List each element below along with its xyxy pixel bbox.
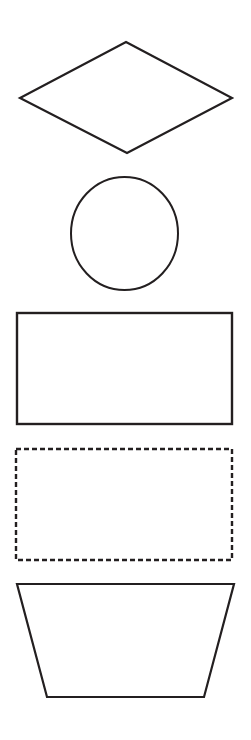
solid-rectangle-shape[interactable]	[17, 313, 232, 424]
dashed-rectangle-shape[interactable]	[16, 449, 232, 560]
circle-shape[interactable]	[71, 177, 178, 290]
shape-vector-surface	[0, 0, 251, 740]
trapezoid-shape[interactable]	[17, 584, 234, 697]
shape-sheet-canvas	[0, 0, 251, 740]
